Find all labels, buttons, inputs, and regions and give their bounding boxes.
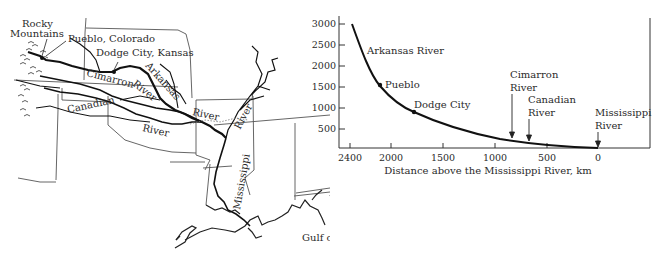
x-tick-1000: 1000 — [483, 152, 507, 163]
label-mississippi-arrow-2: River — [595, 120, 622, 131]
x-axis-label: Distance above the Mississippi River, km — [384, 165, 592, 176]
x-tick-2400: 2400 — [338, 152, 362, 163]
x-tick-0: 0 — [595, 152, 601, 163]
chart-frame — [339, 16, 650, 148]
series-label: Arkansas River — [366, 45, 444, 56]
x-tick-2000: 2000 — [379, 152, 403, 163]
x-tick-1500: 1500 — [431, 152, 455, 163]
dodge-city-point — [412, 110, 416, 114]
label-canadian-river: River — [142, 122, 171, 138]
label-cimarron: Cimarron — [86, 67, 136, 89]
label-mountains: Mountains — [10, 28, 64, 39]
x-axis: 2400 2000 1500 1000 500 0 Distance above… — [338, 143, 601, 176]
cimarron-arrow — [510, 94, 515, 138]
label-dodge-city-point: Dodge City — [414, 99, 471, 110]
canadian-arrow — [527, 119, 532, 141]
pueblo-point — [378, 83, 382, 87]
x-tick-500: 500 — [538, 152, 556, 163]
label-canadian-arrow-2: River — [528, 107, 555, 118]
river-map: Rocky Mountains Pueblo, Colorado Dodge C… — [0, 0, 330, 263]
label-cimarron-river: River — [131, 78, 159, 103]
label-mississippi: Mississippi — [231, 153, 252, 210]
label-canadian-arrow-1: Canadian — [528, 94, 577, 105]
pueblo-marker — [40, 56, 44, 60]
mississippi-arrow — [596, 132, 601, 147]
label-gulf-of-mexico: Gulf of Mexico — [302, 232, 330, 243]
label-mississippi-arrow-1: Mississippi — [595, 107, 651, 118]
label-pueblo-colorado: Pueblo, Colorado — [68, 33, 155, 44]
label-cimarron-arrow-1: Cimarron — [510, 69, 559, 80]
label-dodge-city: Dodge City, Kansas — [96, 47, 194, 58]
label-cimarron-arrow-2: River — [510, 82, 537, 93]
label-pueblo-point: Pueblo — [385, 79, 420, 90]
arkansas-profile-line — [352, 24, 598, 148]
